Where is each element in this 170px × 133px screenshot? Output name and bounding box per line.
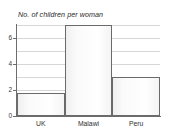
y-tick-mark <box>13 90 16 91</box>
x-axis-line <box>16 116 161 117</box>
bar-malawi <box>65 25 113 116</box>
y-tick-label: 6 <box>3 35 12 42</box>
x-label-malawi: Malawi <box>65 120 113 127</box>
bar-uk <box>17 93 65 116</box>
plot-area <box>17 25 160 116</box>
y-tick-mark <box>13 64 16 65</box>
y-tick-label: 4 <box>3 61 12 68</box>
y-tick-mark <box>13 116 16 117</box>
y-axis-line <box>16 24 17 117</box>
y-tick-mark <box>13 38 16 39</box>
x-label-peru: Peru <box>112 120 160 127</box>
y-tick-label: 0 <box>3 113 12 120</box>
chart-title: No. of children per woman <box>18 10 103 19</box>
bar-chart-figure: No. of children per woman 0246 UKMalawiP… <box>0 0 170 133</box>
bar-peru <box>112 77 160 116</box>
x-label-uk: UK <box>17 120 65 127</box>
y-tick-label: 2 <box>3 87 12 94</box>
